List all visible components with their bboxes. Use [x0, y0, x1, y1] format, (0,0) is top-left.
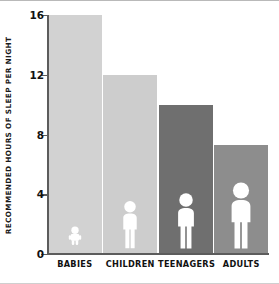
bar-teenagers [159, 105, 213, 254]
y-tick-label: 4 [37, 188, 44, 200]
y-axis-title: RECOMMENDED HOURS OF SLEEP PER NIGHT [5, 36, 14, 234]
y-axis-title-container: RECOMMENDED HOURS OF SLEEP PER NIGHT [0, 15, 18, 255]
bar-adults [214, 145, 268, 254]
x-axis-label-adults: ADULTS [214, 259, 270, 269]
x-axis-label-children: CHILDREN [103, 259, 159, 269]
teenager-figure-icon [172, 192, 200, 250]
sleep-hours-bar-chart: RECOMMENDED HOURS OF SLEEP PER NIGHT [0, 0, 279, 284]
baby-figure-icon [68, 221, 82, 250]
plot-area: 0481216 [47, 15, 269, 254]
x-axis-label-babies: BABIES [47, 259, 103, 269]
x-axis-line [47, 253, 269, 255]
x-axis-label-teenagers: TEENAGERS [158, 259, 214, 269]
adult-figure-icon [224, 181, 258, 250]
x-axis-labels: BABIESCHILDRENTEENAGERSADULTS [47, 259, 269, 275]
y-tick-label: 16 [29, 9, 44, 21]
child-figure-icon [118, 200, 142, 250]
y-tick-label: 12 [29, 69, 44, 81]
bar-babies [49, 15, 102, 254]
y-tick-label: 0 [37, 248, 44, 260]
y-tick-label: 8 [37, 129, 44, 141]
y-axis-line [47, 15, 49, 254]
bar-children [103, 75, 157, 254]
